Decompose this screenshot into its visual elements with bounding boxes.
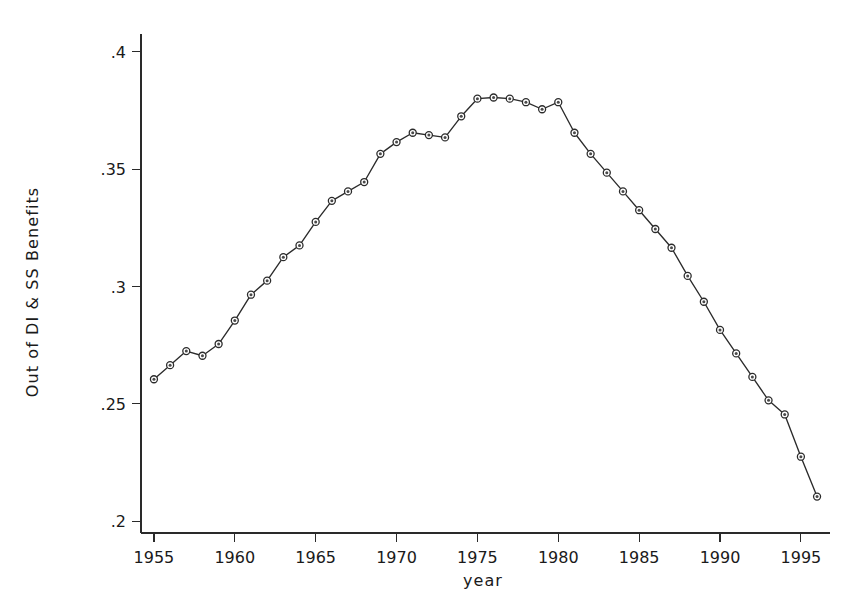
data-point-marker bbox=[539, 106, 546, 113]
x-axis-title: year bbox=[463, 571, 503, 590]
data-point-marker bbox=[619, 188, 626, 195]
data-point-marker bbox=[361, 179, 368, 186]
marker-center-dot bbox=[411, 131, 414, 134]
marker-center-dot bbox=[460, 115, 463, 118]
marker-center-dot bbox=[249, 293, 252, 296]
data-point-marker bbox=[506, 95, 513, 102]
marker-center-dot bbox=[767, 399, 770, 402]
data-point-marker bbox=[247, 291, 254, 298]
data-point-marker bbox=[167, 362, 174, 369]
data-point-marker bbox=[765, 397, 772, 404]
data-point-marker bbox=[215, 341, 222, 348]
y-tick-label: .3 bbox=[111, 278, 126, 297]
marker-center-dot bbox=[298, 244, 301, 247]
x-tick-label: 1990 bbox=[700, 548, 741, 567]
x-axis-ticks: 195519601965197019751980198519901995 bbox=[134, 533, 822, 567]
marker-center-dot bbox=[735, 352, 738, 355]
marker-center-dot bbox=[799, 455, 802, 458]
y-axis-title: Out of DI & SS Benefits bbox=[23, 187, 42, 397]
marker-center-dot bbox=[508, 97, 511, 100]
data-point-marker bbox=[490, 94, 497, 101]
data-point-marker bbox=[328, 197, 335, 204]
x-tick-label: 1995 bbox=[781, 548, 822, 567]
data-point-marker bbox=[393, 139, 400, 146]
marker-center-dot bbox=[605, 171, 608, 174]
data-point-marker bbox=[474, 95, 481, 102]
x-tick-label: 1975 bbox=[457, 548, 498, 567]
y-tick-label: .4 bbox=[111, 43, 126, 62]
data-point-marker bbox=[636, 207, 643, 214]
data-point-marker bbox=[183, 348, 190, 355]
marker-center-dot bbox=[524, 101, 527, 104]
marker-center-dot bbox=[427, 134, 430, 137]
data-point-marker bbox=[199, 352, 206, 359]
data-point-marker bbox=[296, 242, 303, 249]
chart-container: .2.25.3.35.4 195519601965197019751980198… bbox=[0, 0, 851, 612]
data-point-marker bbox=[700, 298, 707, 305]
marker-center-dot bbox=[282, 256, 285, 259]
marker-center-dot bbox=[476, 97, 479, 100]
x-tick-label: 1985 bbox=[619, 548, 660, 567]
y-tick-label: .25 bbox=[101, 395, 126, 414]
y-tick-label: .35 bbox=[101, 160, 126, 179]
marker-center-dot bbox=[702, 300, 705, 303]
data-point-marker bbox=[345, 188, 352, 195]
data-point-marker bbox=[425, 132, 432, 139]
x-tick-label: 1960 bbox=[214, 548, 255, 567]
data-point-marker bbox=[264, 277, 271, 284]
data-point-marker bbox=[409, 129, 416, 136]
data-point-marker bbox=[652, 225, 659, 232]
data-point-marker bbox=[312, 218, 319, 225]
line-chart-plot: .2.25.3.35.4 195519601965197019751980198… bbox=[0, 0, 851, 612]
data-markers-group bbox=[150, 94, 820, 500]
marker-center-dot bbox=[201, 354, 204, 357]
marker-center-dot bbox=[492, 96, 495, 99]
data-point-marker bbox=[150, 376, 157, 383]
marker-center-dot bbox=[169, 364, 172, 367]
data-point-marker bbox=[458, 113, 465, 120]
x-tick-label: 1955 bbox=[134, 548, 175, 567]
marker-center-dot bbox=[185, 350, 188, 353]
marker-center-dot bbox=[330, 199, 333, 202]
data-point-marker bbox=[231, 317, 238, 324]
y-axis-ticks: .2.25.3.35.4 bbox=[101, 43, 141, 532]
data-point-marker bbox=[377, 150, 384, 157]
data-point-marker bbox=[571, 129, 578, 136]
marker-center-dot bbox=[751, 375, 754, 378]
marker-center-dot bbox=[686, 274, 689, 277]
marker-center-dot bbox=[783, 413, 786, 416]
x-tick-label: 1970 bbox=[376, 548, 417, 567]
marker-center-dot bbox=[363, 181, 366, 184]
marker-center-dot bbox=[573, 131, 576, 134]
marker-center-dot bbox=[347, 190, 350, 193]
marker-center-dot bbox=[654, 227, 657, 230]
marker-center-dot bbox=[379, 152, 382, 155]
data-point-marker bbox=[587, 150, 594, 157]
y-tick-label: .2 bbox=[111, 512, 126, 531]
axes-group bbox=[141, 34, 830, 533]
data-point-marker bbox=[555, 99, 562, 106]
marker-center-dot bbox=[719, 328, 722, 331]
marker-center-dot bbox=[670, 246, 673, 249]
marker-center-dot bbox=[217, 343, 220, 346]
marker-center-dot bbox=[638, 209, 641, 212]
data-point-marker bbox=[522, 99, 529, 106]
marker-center-dot bbox=[395, 141, 398, 144]
data-point-marker bbox=[797, 453, 804, 460]
data-point-marker bbox=[781, 411, 788, 418]
data-point-marker bbox=[733, 350, 740, 357]
data-point-marker bbox=[280, 254, 287, 261]
data-point-marker bbox=[668, 244, 675, 251]
marker-center-dot bbox=[233, 319, 236, 322]
marker-center-dot bbox=[444, 136, 447, 139]
data-point-marker bbox=[749, 373, 756, 380]
data-point-marker bbox=[684, 272, 691, 279]
marker-center-dot bbox=[621, 190, 624, 193]
marker-center-dot bbox=[816, 495, 819, 498]
data-point-marker bbox=[442, 134, 449, 141]
marker-center-dot bbox=[557, 101, 560, 104]
marker-center-dot bbox=[152, 378, 155, 381]
data-point-marker bbox=[717, 326, 724, 333]
x-tick-label: 1965 bbox=[295, 548, 336, 567]
x-tick-label: 1980 bbox=[538, 548, 579, 567]
